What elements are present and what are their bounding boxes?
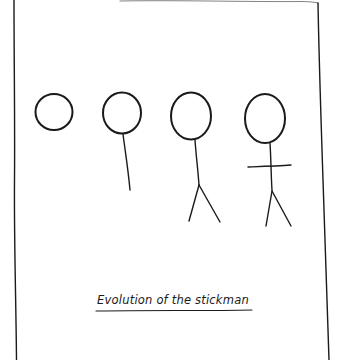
stickman-head-body: [103, 93, 141, 191]
stickman-full: [245, 94, 291, 226]
caption-underline: [96, 310, 252, 311]
stickman-head-only: [36, 94, 73, 130]
arms: [248, 165, 291, 167]
stickman-head-body-legs: [171, 93, 220, 223]
body: [123, 134, 130, 190]
body: [195, 140, 199, 185]
right-leg: [272, 191, 291, 226]
head: [171, 93, 211, 140]
head: [103, 93, 141, 134]
left-leg: [189, 185, 199, 221]
head: [245, 94, 285, 143]
caption: Evolution of the stickman: [88, 293, 258, 307]
right-leg: [199, 185, 220, 222]
left-leg: [266, 191, 272, 226]
head: [36, 94, 73, 130]
